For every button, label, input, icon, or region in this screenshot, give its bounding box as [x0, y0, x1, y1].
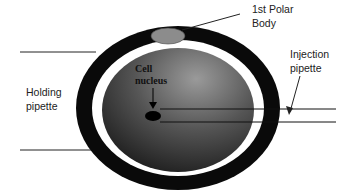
cell-nucleus: [145, 111, 161, 121]
polar-body: [151, 28, 185, 44]
label-injection-2: pipette: [290, 62, 322, 74]
label-holding-1: Holding: [26, 86, 62, 98]
label-polar-body-1: 1st Polar: [252, 3, 294, 15]
cytoplasm: [102, 48, 254, 172]
label-holding-2: pipette: [26, 100, 58, 112]
label-nucleus-2: nucleus: [135, 75, 167, 86]
label-polar-body-2: Body: [252, 17, 277, 29]
polar-body-leader: [182, 14, 240, 30]
label-injection-1: Injection: [290, 48, 329, 60]
microinjection-diagram: 1st Polar Body Injection pipette Holding…: [0, 0, 352, 194]
label-nucleus-1: Cell: [135, 63, 152, 74]
